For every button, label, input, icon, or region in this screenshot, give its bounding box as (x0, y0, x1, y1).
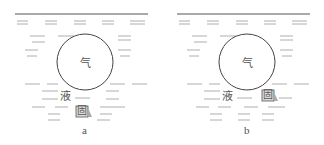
liquid-hatching (179, 21, 309, 120)
solid-particle-shadow (274, 92, 278, 101)
liquid-label-a: 液 (60, 91, 71, 102)
solid-label-a: 固 (77, 106, 87, 116)
solid-label-b: 固 (263, 90, 273, 100)
solid-particle-shadow (88, 108, 92, 117)
gas-label-a: 气 (80, 58, 91, 69)
caption-b: b (244, 125, 250, 136)
flotation-diagram (0, 0, 324, 145)
caption-a: a (82, 125, 87, 136)
liquid-label-b: 液 (222, 91, 233, 102)
gas-label-b: 气 (242, 58, 253, 69)
